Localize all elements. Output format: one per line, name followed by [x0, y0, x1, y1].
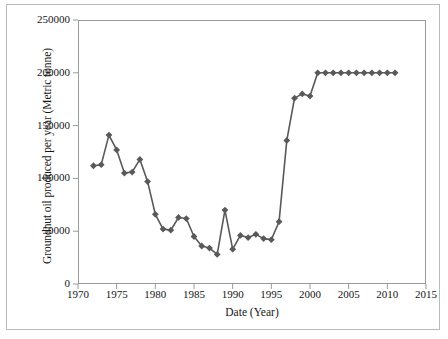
data-point-marker [276, 218, 283, 225]
data-point-marker [314, 69, 321, 76]
x-axis-title: Date (Year) [78, 306, 426, 318]
y-tick-label: 250000 [6, 13, 70, 25]
x-tick-label: 2010 [365, 288, 409, 300]
data-point-marker [245, 234, 252, 241]
data-point-marker [183, 215, 190, 222]
data-point-marker [98, 161, 105, 168]
data-point-marker [353, 69, 360, 76]
data-point-marker [330, 69, 337, 76]
x-tick-label: 2000 [288, 288, 332, 300]
data-point-marker [229, 246, 236, 253]
x-tick-label: 1975 [95, 288, 139, 300]
data-point-marker [299, 91, 306, 98]
data-point-marker [368, 69, 375, 76]
data-point-marker [283, 137, 290, 144]
x-tick-label: 1970 [56, 288, 100, 300]
y-tick-label: 50000 [6, 224, 70, 236]
data-point-marker [384, 69, 391, 76]
data-point-marker [113, 146, 120, 153]
y-axis-title-wrapper: Groundnut oil produced per year (Metric … [0, 0, 1, 1]
data-point-marker [121, 170, 128, 177]
y-tick-label: 100000 [6, 171, 70, 183]
chart-figure: 050000100000150000200000250000 197019751… [0, 0, 448, 339]
y-axis-title: Groundnut oil produced per year (Metric … [41, 16, 53, 296]
x-tick-label: 2015 [404, 288, 448, 300]
data-point-marker [307, 93, 314, 100]
x-tick-label: 1990 [211, 288, 255, 300]
data-point-marker [160, 226, 167, 233]
data-point-marker [345, 69, 352, 76]
data-point-marker [237, 232, 244, 239]
data-point-marker [376, 69, 383, 76]
y-tick-label: 150000 [6, 119, 70, 131]
data-point-marker [392, 69, 399, 76]
data-point-marker [144, 178, 151, 185]
data-point-marker [268, 236, 275, 243]
x-tick-label: 1995 [249, 288, 293, 300]
axis-ticks [73, 20, 426, 289]
data-point-marker [260, 235, 267, 242]
data-point-marker [106, 132, 113, 139]
y-tick-label: 200000 [6, 66, 70, 78]
data-series-line [93, 73, 395, 255]
x-tick-label: 1985 [172, 288, 216, 300]
data-point-marker [252, 231, 259, 238]
data-point-marker [291, 95, 298, 102]
x-tick-label: 2005 [327, 288, 371, 300]
data-series-markers [90, 69, 398, 257]
data-point-marker [90, 162, 97, 169]
x-tick-label: 1980 [133, 288, 177, 300]
data-point-marker [322, 69, 329, 76]
data-point-marker [338, 69, 345, 76]
data-point-marker [222, 207, 229, 214]
data-point-marker [152, 211, 159, 218]
data-point-marker [361, 69, 368, 76]
